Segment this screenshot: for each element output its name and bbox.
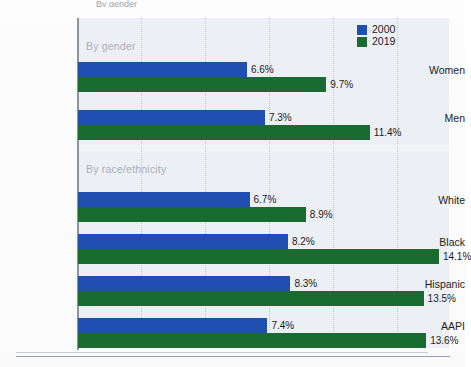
bar-2000-white bbox=[78, 192, 250, 207]
legend-swatch-icon-2019 bbox=[357, 37, 367, 47]
category-label-black: Black bbox=[393, 236, 465, 248]
category-label-women: Women bbox=[393, 64, 465, 76]
bar-2000-men bbox=[78, 110, 265, 125]
bar-value-2019-hispanic: 13.5% bbox=[428, 291, 456, 306]
clipped-title: By gender bbox=[96, 0, 216, 7]
category-label-hispanic: Hispanic bbox=[393, 278, 465, 290]
category-label-white: White bbox=[393, 194, 465, 206]
bar-value-2000-men: 7.3% bbox=[269, 110, 292, 125]
legend-label-2019: 2019 bbox=[372, 36, 395, 47]
bar-2019-hispanic bbox=[78, 291, 424, 306]
bar-2019-women bbox=[78, 77, 326, 92]
bar-value-2019-aapi: 13.6% bbox=[430, 333, 458, 348]
category-label-aapi: AAPI bbox=[393, 320, 465, 332]
legend-item-2000: 2000 bbox=[357, 24, 395, 35]
bar-value-2019-women: 9.7% bbox=[330, 77, 353, 92]
bar-value-2000-aapi: 7.4% bbox=[271, 318, 294, 333]
bar-2019-aapi bbox=[78, 333, 426, 348]
bar-value-2000-white: 6.7% bbox=[254, 192, 277, 207]
bar-value-2019-men: 11.4% bbox=[374, 125, 402, 140]
bar-2000-black bbox=[78, 234, 288, 249]
bar-value-2019-white: 8.9% bbox=[310, 207, 333, 222]
bar-2019-black bbox=[78, 249, 439, 264]
bar-2019-men bbox=[78, 125, 370, 140]
legend-label-2000: 2000 bbox=[372, 24, 395, 35]
bar-value-2000-black: 8.2% bbox=[292, 234, 315, 249]
footer-rule-upper bbox=[16, 352, 428, 353]
bar-value-2000-women: 6.6% bbox=[251, 62, 274, 77]
bar-2000-women bbox=[78, 62, 247, 77]
footer-rule bbox=[16, 356, 450, 357]
legend-swatch-icon-2000 bbox=[357, 25, 367, 35]
section-caption-by-race-ethnicity: By race/ethnicity bbox=[86, 163, 166, 175]
bar-2000-hispanic bbox=[78, 276, 290, 291]
bar-2019-white bbox=[78, 207, 306, 222]
bar-value-2019-black: 14.1% bbox=[443, 249, 471, 264]
chart-legend: 2000 2019 bbox=[357, 24, 395, 47]
section-caption-by-gender: By gender bbox=[86, 40, 136, 52]
category-label-men: Men bbox=[393, 112, 465, 124]
legend-item-2019: 2019 bbox=[357, 36, 395, 47]
bar-value-2000-hispanic: 8.3% bbox=[294, 276, 317, 291]
bar-2000-aapi bbox=[78, 318, 267, 333]
